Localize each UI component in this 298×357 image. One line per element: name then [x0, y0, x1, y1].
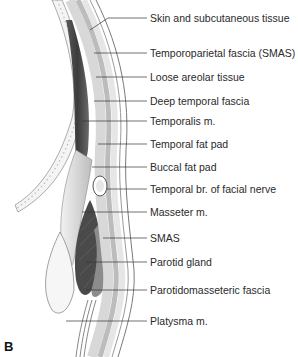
label-temporal-branch-facial-nerve: Temporal br. of facial nerve: [150, 183, 276, 195]
panel-letter: B: [4, 339, 13, 354]
label-temporal-fat-pad: Temporal fat pad: [150, 138, 228, 150]
label-parotid-gland: Parotid gland: [150, 256, 212, 268]
label-buccal-fat-pad: Buccal fat pad: [150, 161, 217, 173]
label-temporoparietal-fascia: Temporoparietal fascia (SMAS): [150, 47, 295, 59]
label-loose-areolar: Loose areolar tissue: [150, 71, 245, 83]
label-platysma: Platysma m.: [150, 315, 208, 327]
label-masseter: Masseter m.: [150, 206, 208, 218]
label-smas: SMAS: [150, 232, 180, 244]
label-temporalis: Temporalis m.: [150, 115, 215, 127]
label-skin: Skin and subcutaneous tissue: [150, 12, 290, 24]
label-parotidomasseteric-fascia: Parotidomasseteric fascia: [150, 284, 270, 296]
label-deep-temporal-fascia: Deep temporal fascia: [150, 95, 249, 107]
